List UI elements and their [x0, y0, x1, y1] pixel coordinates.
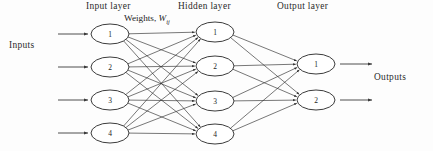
neuron-label-output-2: 2 — [314, 96, 318, 105]
neuron-output-2[interactable]: 2 — [297, 90, 335, 110]
neuron-hidden-2[interactable]: 2 — [196, 56, 234, 76]
neuron-label-hidden-1: 1 — [213, 28, 217, 37]
outputs-caption: Outputs — [374, 72, 406, 82]
neuron-input-1[interactable]: 1 — [91, 24, 129, 44]
weights-prefix-text: Weights, — [124, 13, 158, 23]
neuron-label-input-4: 4 — [108, 129, 112, 138]
connection-edge-input4-hidden3 — [128, 104, 196, 130]
input-layer-caption: Input layer — [86, 1, 131, 11]
neuron-label-hidden-3: 3 — [213, 97, 217, 106]
connection-edge-hidden4-output2 — [233, 103, 297, 131]
connection-edge-input1-hidden3 — [126, 39, 198, 95]
connection-edge-hidden2-output2 — [233, 69, 297, 97]
connection-edge-input3-hidden3 — [129, 100, 195, 101]
neuron-hidden-4[interactable]: 4 — [196, 124, 234, 144]
output-layer-caption: Output layer — [277, 1, 328, 11]
neuron-hidden-1[interactable]: 1 — [196, 22, 234, 42]
connection-edge-hidden3-output2 — [234, 100, 296, 101]
connection-edge-hidden4-output1 — [230, 70, 299, 129]
hidden-layer-caption: Hidden layer — [178, 1, 231, 11]
connection-edge-input4-hidden2 — [126, 71, 198, 127]
neuron-label-input-2: 2 — [108, 63, 112, 72]
neural-network-diagram: 1234123412 Input layer Hidden layer Outp… — [0, 0, 433, 151]
neuron-nodes-group: 1234123412 — [91, 22, 335, 144]
neuron-label-hidden-4: 4 — [213, 130, 217, 139]
connection-edge-input4-hidden1 — [123, 39, 200, 126]
neuron-label-hidden-2: 2 — [213, 62, 217, 71]
inputs-caption: Inputs — [9, 40, 35, 50]
neuron-label-input-1: 1 — [108, 30, 112, 39]
neuron-input-3[interactable]: 3 — [91, 90, 129, 110]
network-canvas: 1234123412 — [0, 0, 433, 151]
neuron-output-1[interactable]: 1 — [297, 54, 335, 74]
neuron-hidden-3[interactable]: 3 — [196, 91, 234, 111]
connection-edge-input4-hidden4 — [129, 133, 195, 134]
connection-edge-input2-hidden1 — [128, 35, 196, 64]
neuron-input-2[interactable]: 2 — [91, 57, 129, 77]
neuron-label-input-3: 3 — [108, 96, 112, 105]
connection-edges-group — [123, 32, 299, 134]
neuron-label-output-1: 1 — [314, 60, 318, 69]
weights-subscript-text: ij — [166, 18, 170, 25]
weights-caption: Weights, Wij — [124, 13, 170, 25]
connection-edge-hidden1-output1 — [233, 35, 297, 61]
connection-edge-input1-hidden2 — [128, 37, 196, 63]
connection-edge-input2-hidden3 — [128, 70, 196, 98]
connection-edge-hidden3-output1 — [232, 68, 297, 98]
weights-symbol-text: W — [158, 13, 166, 23]
neuron-input-4[interactable]: 4 — [91, 123, 129, 143]
io-arrows-group — [58, 34, 372, 133]
connection-edge-input1-hidden1 — [129, 32, 195, 34]
